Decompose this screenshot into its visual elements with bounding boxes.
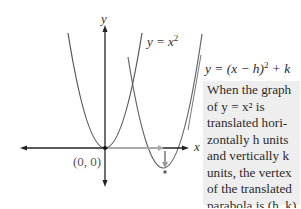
label-pointer-line — [188, 55, 201, 130]
x-axis-left-arrow — [20, 146, 27, 151]
note-line: of y = x² is — [207, 99, 301, 116]
origin-vertex-dot — [103, 146, 107, 150]
x-axis-right-arrow — [182, 146, 189, 151]
note-line: translated hori- — [207, 115, 301, 132]
horizontal-shift-arrowhead — [158, 145, 164, 151]
parent-equation-label: y = x2 — [147, 34, 178, 50]
note-line: When the graph — [207, 82, 301, 99]
translated-vertex-dot — [163, 170, 167, 174]
note-line: and vertically k — [207, 148, 301, 165]
y-axis-down-arrow — [103, 180, 108, 187]
note-text: When the graph of y = x² is translated h… — [207, 82, 301, 208]
origin-label: (0, 0) — [73, 154, 101, 170]
x-axis-label: x — [194, 139, 200, 155]
note-line: of the translated — [207, 181, 301, 198]
y-axis-label: y — [101, 11, 107, 27]
note-line: units, the vertex — [207, 165, 301, 182]
translated-equation-label: y = (x − h)2 + k — [205, 61, 290, 77]
note-line: parabola is (h, k). — [207, 198, 301, 209]
note-line: zontally h units — [207, 132, 301, 149]
